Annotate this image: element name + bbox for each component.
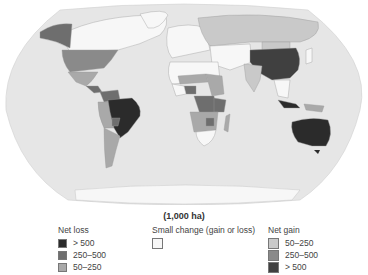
legend-item: 250–500	[58, 249, 106, 261]
legend-label: > 500	[73, 238, 95, 248]
legend-item: 50–250	[268, 237, 318, 249]
legend-item: > 500	[58, 237, 106, 249]
unit-label: (1,000 ha)	[0, 211, 368, 221]
legend-net-gain: Net gain 50–250 250–500 > 500	[268, 225, 318, 273]
legend-label: > 500	[285, 262, 307, 272]
legend-item: 50–250	[58, 261, 106, 273]
legend-item: 250–500	[268, 249, 318, 261]
region-japan	[306, 48, 312, 64]
swatch-loss-low	[58, 263, 67, 272]
legend-label: 50–250	[73, 262, 101, 272]
legend-item	[152, 237, 255, 249]
swatch-small-change	[152, 238, 163, 249]
legend-small-change: Small change (gain or loss)	[152, 225, 255, 249]
region-sahel	[178, 74, 208, 84]
legend-small-change-title: Small change (gain or loss)	[152, 225, 255, 235]
swatch-loss-high	[58, 239, 67, 248]
region-tanzania	[214, 98, 226, 112]
legend-net-loss-title: Net loss	[58, 225, 106, 235]
swatch-loss-mid	[58, 251, 67, 260]
region-russia	[198, 15, 319, 46]
legend-label: 50–250	[285, 238, 313, 248]
legend-net-gain-title: Net gain	[268, 225, 318, 235]
legend-item: > 500	[268, 261, 318, 273]
legend-label: 250–500	[73, 250, 106, 260]
swatch-gain-low	[268, 238, 279, 249]
swatch-gain-mid	[268, 250, 279, 261]
world-map	[0, 0, 368, 205]
region-zimbabwe	[206, 118, 214, 126]
legend-net-loss: Net loss > 500 250–500 50–250	[58, 225, 106, 273]
region-antarctica	[75, 185, 300, 204]
legend-label: 250–500	[285, 250, 318, 260]
swatch-gain-high	[268, 262, 279, 273]
